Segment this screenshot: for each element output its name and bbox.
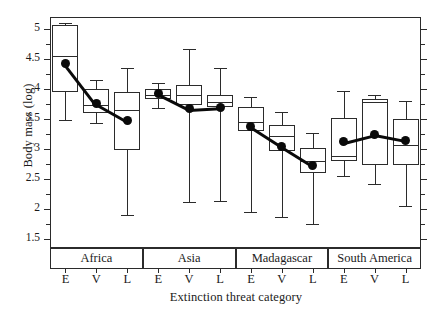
whisker-cap-lower (214, 201, 227, 202)
mean-marker (92, 99, 101, 108)
y-tick-label: 1.5 (0, 231, 40, 243)
whisker-lower (96, 113, 97, 123)
whisker-upper (313, 133, 314, 148)
y-tick (44, 239, 50, 240)
y-minor-tick (46, 134, 50, 135)
y-tick (44, 149, 50, 150)
x-tick-label-e: E (239, 272, 263, 287)
whisker-cap-upper (214, 68, 227, 69)
whisker-lower (127, 150, 128, 215)
y-minor-tick-right (421, 164, 425, 165)
whisker-cap-upper (368, 95, 381, 96)
y-minor-tick-right (421, 104, 425, 105)
mean-marker (370, 130, 379, 139)
y-tick (44, 59, 50, 60)
whisker-cap-lower (306, 224, 319, 225)
group-label-south-america: South America (328, 248, 421, 269)
y-tick-label: 3.5 (0, 111, 40, 123)
x-axis-label: Extinction threat category (50, 290, 422, 305)
y-minor-tick-right (421, 134, 425, 135)
whisker-cap-lower (244, 212, 257, 213)
y-tick (44, 209, 50, 210)
whisker-cap-upper (337, 91, 350, 92)
whisker-upper (251, 97, 252, 107)
y-minor-tick-right (421, 44, 425, 45)
whisker-lower (158, 99, 159, 108)
y-minor-tick (46, 44, 50, 45)
median-line (52, 56, 78, 57)
mean-marker (308, 161, 317, 170)
whisker-upper (344, 91, 345, 118)
whisker-cap-lower (183, 202, 196, 203)
y-tick-label: 3 (0, 141, 40, 153)
x-tick-label-e: E (332, 272, 356, 287)
whisker-lower (375, 165, 376, 184)
median-line (331, 156, 357, 157)
y-tick-label: 4.5 (0, 51, 40, 63)
whisker-upper (127, 68, 128, 92)
y-minor-tick (46, 164, 50, 165)
mean-marker (216, 103, 225, 112)
y-tick-right (421, 239, 427, 240)
y-tick-right (421, 209, 427, 210)
whisker-cap-lower (59, 120, 72, 121)
whisker-upper (282, 112, 283, 125)
whisker-lower (220, 107, 221, 201)
x-tick-label-e: E (146, 272, 170, 287)
whisker-lower (189, 105, 190, 202)
y-tick (44, 29, 50, 30)
whisker-upper (96, 80, 97, 89)
whisker-cap-lower (337, 176, 350, 177)
y-tick-right (421, 119, 427, 120)
x-tick-label-l: L (301, 272, 325, 287)
mean-marker (61, 59, 70, 68)
mean-marker (277, 142, 286, 151)
x-tick-label-e: E (53, 272, 77, 287)
y-tick-right (421, 149, 427, 150)
group-label-africa: Africa (50, 248, 143, 269)
whisker-cap-lower (399, 206, 412, 207)
x-tick-label-v: V (363, 272, 387, 287)
whisker-cap-lower (121, 215, 134, 216)
whisker-upper (189, 49, 190, 85)
y-tick-right (421, 59, 427, 60)
y-tick-label: 5 (0, 21, 40, 33)
whisker-cap-lower (152, 108, 165, 109)
median-line (269, 136, 295, 137)
boxplot-figure: Body mass (log) Extinction threat catego… (0, 0, 432, 313)
y-tick-label: 2.5 (0, 171, 40, 183)
y-tick-label: 4 (0, 81, 40, 93)
whisker-cap-upper (152, 83, 165, 84)
whisker-upper (220, 68, 221, 95)
y-tick-right (421, 89, 427, 90)
whisker-lower (313, 173, 314, 224)
y-minor-tick-right (421, 74, 425, 75)
whisker-lower (65, 92, 66, 120)
y-tick (44, 89, 50, 90)
y-tick-right (421, 179, 427, 180)
whisker-cap-upper (244, 97, 257, 98)
x-tick-label-v: V (270, 272, 294, 287)
y-minor-tick (46, 194, 50, 195)
whisker-cap-lower (90, 123, 103, 124)
y-tick (44, 119, 50, 120)
mean-marker (185, 104, 194, 113)
whisker-lower (251, 131, 252, 212)
median-line (362, 102, 388, 103)
whisker-cap-upper (183, 49, 196, 50)
whisker-cap-upper (90, 80, 103, 81)
x-tick-label-l: L (208, 272, 232, 287)
whisker-cap-upper (121, 68, 134, 69)
median-line (114, 110, 140, 111)
whisker-cap-lower (275, 217, 288, 218)
y-minor-tick (46, 104, 50, 105)
y-minor-tick (46, 224, 50, 225)
median-line (176, 95, 202, 96)
mean-marker (154, 89, 163, 98)
y-tick (44, 179, 50, 180)
whisker-cap-lower (368, 184, 381, 185)
whisker-lower (344, 161, 345, 176)
group-label-asia: Asia (143, 248, 236, 269)
x-tick-label-l: L (394, 272, 418, 287)
whisker-lower (406, 165, 407, 206)
